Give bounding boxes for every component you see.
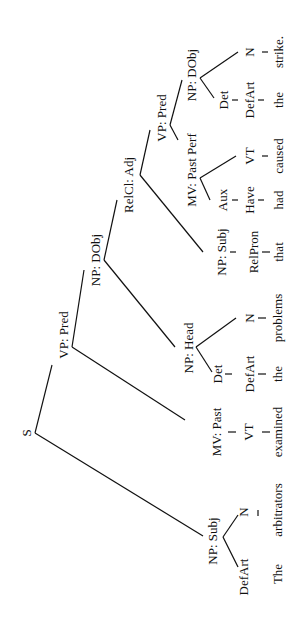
word-caused: caused <box>271 138 286 174</box>
node-det-1: Det <box>210 364 225 383</box>
node-relpron: RelPron <box>246 230 261 273</box>
tree-edges <box>35 52 270 567</box>
node-mv-pastperf: MV: Past Perf <box>184 133 199 207</box>
word-the-1: The <box>270 564 285 584</box>
node-n-1: N <box>236 507 251 517</box>
node-np-dobj: NP: DObj <box>88 234 103 286</box>
node-defart-3: DefArt <box>242 81 257 118</box>
node-defart-1: DefArt <box>236 558 251 595</box>
node-vp-pred-2: VP: Pred <box>154 94 169 142</box>
word-the-3: the <box>271 92 286 108</box>
tree-labels: S NP: Subj DefArt N The arbitrators VP: … <box>19 36 286 595</box>
node-mv-past: MV: Past <box>209 407 224 456</box>
node-vt-1: VT <box>241 423 256 440</box>
node-vp-pred: VP: Pred <box>56 311 71 359</box>
word-the-2: the <box>270 366 285 382</box>
node-np-subj-2: NP: Subj <box>214 228 229 275</box>
node-s: S <box>19 429 34 436</box>
word-strike: strike. <box>271 36 286 68</box>
node-det-2: Det <box>216 90 231 109</box>
word-had: had <box>271 190 286 209</box>
word-arbitrators: arbitrators <box>270 483 285 536</box>
node-have: Have <box>242 186 257 214</box>
word-examined: examined <box>270 406 285 457</box>
node-aux: Aux <box>215 188 230 211</box>
node-n-2: N <box>242 313 257 323</box>
node-np-head: NP: Head <box>181 322 196 373</box>
node-np-dobj-2: NP: DObj <box>184 49 199 101</box>
node-np-subj: NP: Subj <box>205 517 220 564</box>
word-problems: problems <box>270 294 285 342</box>
node-relcl-adj: RelCl: Adj <box>121 157 136 213</box>
word-that: that <box>271 242 286 262</box>
node-defart-2: DefArt <box>242 355 257 392</box>
node-vt-2: VT <box>242 147 257 164</box>
syntax-tree-diagram: S NP: Subj DefArt N The arbitrators VP: … <box>0 0 303 632</box>
node-n-3: N <box>242 47 257 57</box>
